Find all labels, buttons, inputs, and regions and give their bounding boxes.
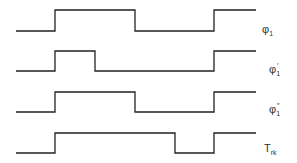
label-phi1-prime-mark: ′ bbox=[277, 62, 278, 69]
label-phi1-prime-subscript: 1 bbox=[276, 70, 280, 77]
label-phi1-subscript: 1 bbox=[269, 30, 273, 37]
label-phi1-double-prime-subscript: 1 bbox=[276, 110, 280, 117]
label-trk-symbol: T bbox=[264, 142, 271, 154]
waveform-trk bbox=[16, 133, 256, 153]
waveform-phi1-double-prime bbox=[16, 92, 256, 112]
label-phi1: φ1 bbox=[262, 24, 273, 37]
waveform-phi1 bbox=[16, 10, 256, 31]
label-phi1-double-prime-mark: ″ bbox=[277, 102, 279, 109]
timing-diagram bbox=[0, 0, 297, 163]
waveform-phi1-prime bbox=[16, 51, 256, 71]
label-trk-subscript: rk bbox=[271, 149, 277, 156]
label-trk: Trk bbox=[264, 143, 277, 156]
label-phi1-double-prime: φ1″ bbox=[269, 104, 283, 117]
label-phi1-prime: φ1′ bbox=[269, 64, 281, 77]
